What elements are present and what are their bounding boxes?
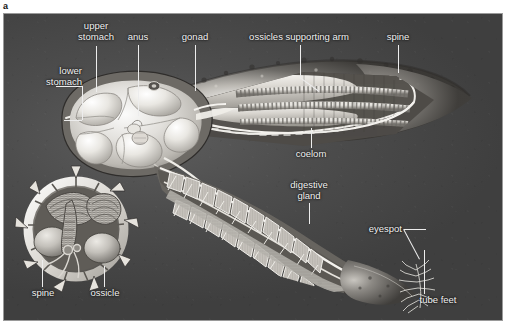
leader-spine-top <box>398 45 399 73</box>
leader-ossicles-vertical <box>300 45 301 77</box>
leader-tube-feet <box>424 250 425 294</box>
leader-coelom <box>311 128 312 148</box>
figure-root: a <box>0 0 506 324</box>
leader-lower-stomach-bottom <box>64 120 82 121</box>
leader-lower-stomach-vertical <box>82 86 83 120</box>
label-ossicle-inset: ossicle <box>74 288 136 299</box>
leader-upper-stomach <box>96 46 97 92</box>
label-digestive-gland: digestive gland <box>276 180 342 201</box>
leader-eyespot-horizontal <box>404 229 426 230</box>
label-tube-feet: tube feet <box>402 295 474 306</box>
label-coelom: coelom <box>284 149 338 160</box>
leader-spine-inset <box>42 260 43 287</box>
leader-digestive-gland <box>309 203 310 224</box>
label-spine-top: spine <box>374 32 422 43</box>
leader-lower-stomach-top <box>56 86 82 87</box>
label-spine-inset: spine <box>18 288 68 299</box>
leader-ossicle-inset <box>104 266 105 287</box>
label-anus: anus <box>116 32 160 43</box>
leader-anus <box>138 45 139 116</box>
label-lower-stomach: lower stomach <box>6 66 82 87</box>
leader-gonad <box>195 45 196 91</box>
label-ossicles-supporting-arm: ossicles supporting arm <box>232 32 366 43</box>
label-gonad: gonad <box>170 32 220 43</box>
label-eyespot: eyespot <box>342 224 402 235</box>
sea-star-illustration <box>4 14 503 321</box>
panel-letter: a <box>3 1 8 11</box>
anatomy-figure: upper stomach anus gonad ossicles suppor… <box>3 13 503 321</box>
